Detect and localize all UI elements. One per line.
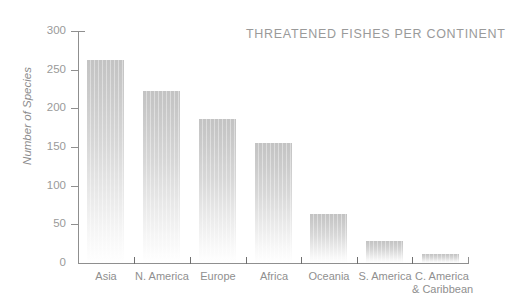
x-label-europe: Europe [190, 270, 246, 283]
plot-area [78, 31, 468, 263]
y-tick-50 [71, 224, 78, 225]
bar-texture [87, 60, 124, 263]
y-tick-label-50: 50 [26, 217, 66, 229]
y-tick-150 [71, 147, 78, 148]
x-label-n-america: N. America [134, 270, 190, 283]
bar-c-america [422, 254, 459, 263]
y-tick-200 [71, 108, 78, 109]
y-tick-250 [71, 70, 78, 71]
x-label-c-america-line1: C. America [415, 270, 469, 282]
x-label-oceania: Oceania [301, 270, 357, 283]
y-tick-100 [71, 186, 78, 187]
bar-texture [143, 91, 180, 264]
bar-europe [199, 119, 236, 263]
bar-n-america [143, 91, 180, 264]
x-label-c-america: C. America & Caribbean [412, 270, 472, 296]
y-tick-300 [71, 31, 78, 32]
x-axis-right-cap [468, 257, 469, 264]
bar-oceania [310, 214, 347, 264]
bar-texture [310, 214, 347, 264]
bar-s-america [366, 241, 403, 263]
y-tick-label-0: 0 [26, 256, 66, 268]
y-tick-label-300: 300 [26, 24, 66, 36]
y-tick-label-250: 250 [26, 63, 66, 75]
y-tick-label-200: 200 [26, 101, 66, 113]
y-tick-label-150: 150 [26, 140, 66, 152]
bar-asia [87, 60, 124, 263]
x-axis-line [78, 263, 469, 264]
bar-africa [255, 143, 292, 263]
x-label-asia: Asia [78, 270, 134, 283]
bar-texture [422, 254, 459, 263]
x-label-c-america-line2: & Caribbean [412, 283, 472, 296]
bar-texture [255, 143, 292, 263]
bar-texture [366, 241, 403, 263]
x-label-s-america: S. America [357, 270, 413, 283]
bar-texture [199, 119, 236, 263]
x-label-africa: Africa [246, 270, 302, 283]
y-tick-label-100: 100 [26, 179, 66, 191]
